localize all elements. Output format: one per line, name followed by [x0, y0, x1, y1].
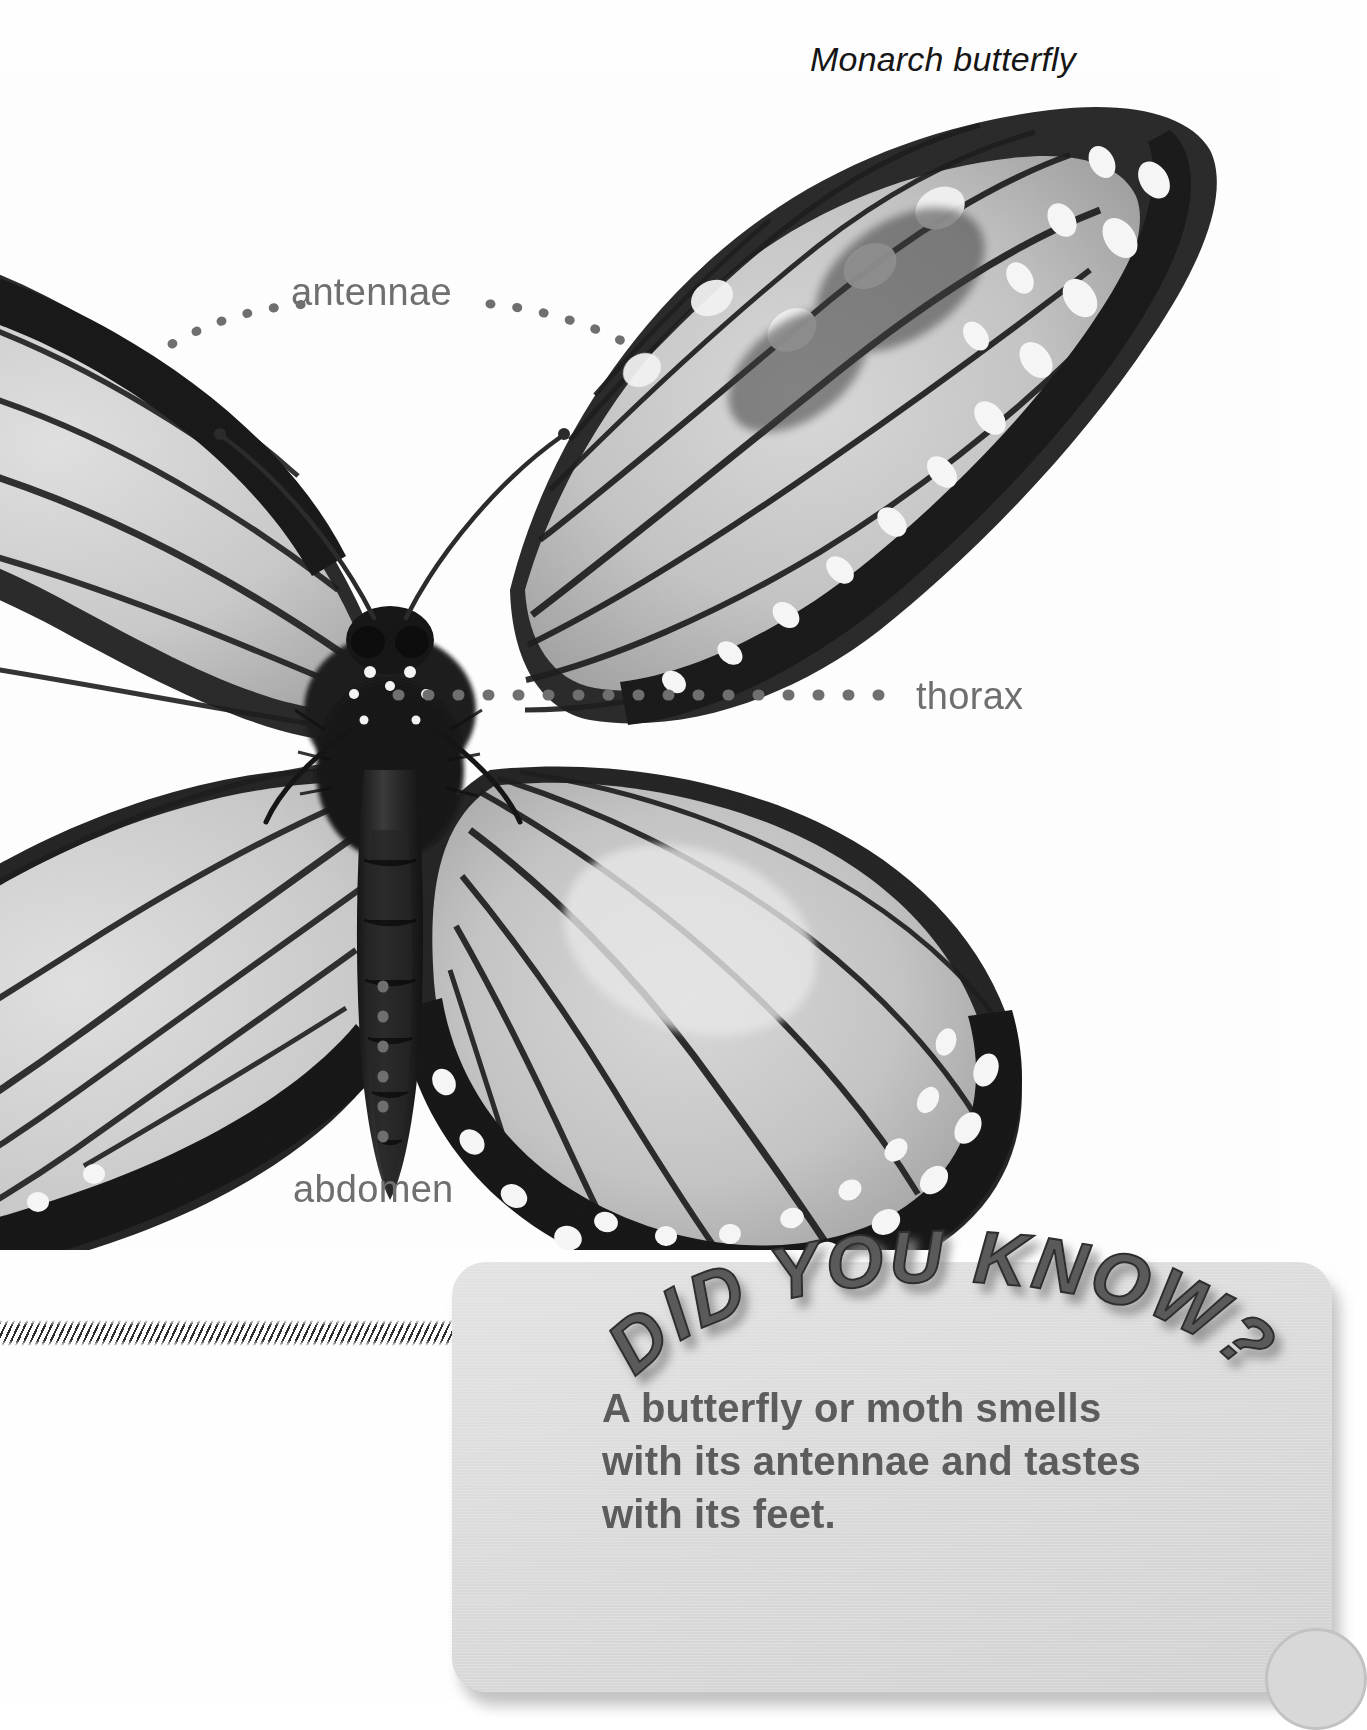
did-you-know-body: A butterfly or moth smells with its ante…: [602, 1382, 1262, 1540]
hatched-divider-rule: [0, 1320, 470, 1346]
did-you-know-title: DID YOU KNOW?: [632, 1222, 1252, 1382]
body-line-1: A butterfly or moth smells: [602, 1382, 1262, 1435]
label-thorax: thorax: [916, 675, 1023, 718]
body-line-3: with its feet.: [602, 1488, 1262, 1541]
did-you-know-title-text: DID YOU KNOW?: [591, 1215, 1294, 1390]
butterfly-photograph: [0, 70, 1280, 1250]
label-antennae: antennae: [291, 271, 452, 314]
label-abdomen: abdomen: [293, 1168, 454, 1211]
did-you-know-callout: DID YOU KNOW? A butterfly or moth smells…: [452, 1262, 1355, 1702]
body-line-2: with its antennae and tastes: [602, 1435, 1262, 1488]
page-number-bubble: [1265, 1628, 1367, 1730]
